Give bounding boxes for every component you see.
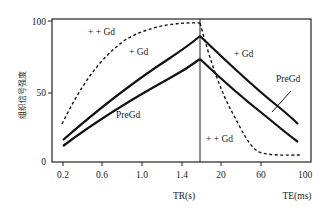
annotation-te-ppgd: + + Gd — [206, 134, 233, 144]
tr-tick-1-4: 1.4 — [176, 170, 188, 180]
y-tick-label-50: 50 — [37, 88, 47, 98]
te-tick-100: 100 — [298, 170, 313, 180]
y-tick-label-0: 0 — [41, 157, 46, 167]
annotation-tr-ppgd: + + Gd — [88, 27, 115, 37]
tr-axis-title: TR(s) — [173, 191, 195, 202]
tr-tick-1-0: 1.0 — [136, 170, 148, 180]
tr-tick-0-6: 0.6 — [96, 170, 108, 180]
annotation-te-pgd: + Gd — [234, 49, 254, 59]
signal-intensity-chart: 100 50 0 组织信号强度 0.2 0.6 1.0 1.4 20 60 10… — [0, 0, 329, 216]
y-axis-label: 组织信号强度 — [17, 71, 27, 119]
tr-tick-0-2: 0.2 — [57, 170, 69, 180]
te-axis-title: TE(ms) — [282, 191, 311, 202]
te-tick-60: 60 — [256, 170, 266, 180]
te-curve-pregd — [200, 59, 298, 142]
annotation-tr-pregd: PreGd — [116, 110, 141, 120]
annotation-tr-pgd: + Gd — [129, 47, 149, 57]
tr-x-ticks — [63, 162, 261, 166]
y-tick-label-100: 100 — [32, 17, 47, 27]
te-tick-20: 20 — [216, 170, 226, 180]
annotation-te-pregd: PreGd — [276, 74, 301, 84]
tr-curve-pregd — [63, 59, 200, 146]
plot-frame — [52, 19, 311, 162]
